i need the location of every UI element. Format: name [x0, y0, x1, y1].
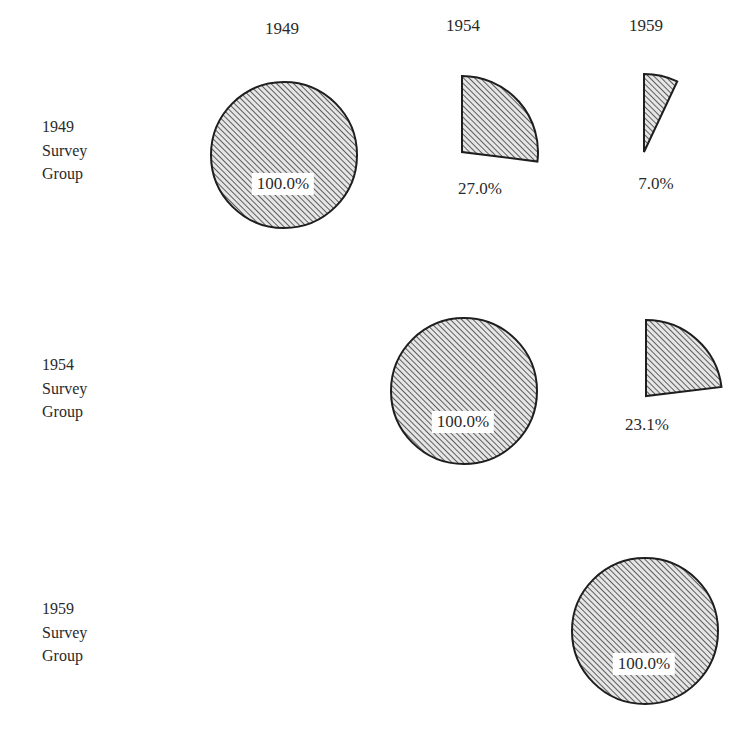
row-label-group: Group	[42, 644, 87, 668]
row-label-survey: Survey	[42, 139, 87, 163]
row-label-year: 1949	[42, 115, 87, 139]
row-label-year: 1954	[42, 353, 87, 377]
pct-label-1954-group-1959: 23.1%	[625, 416, 669, 434]
pie-1949-group-1954	[462, 76, 538, 162]
pie-1959-group-1959	[572, 558, 718, 704]
column-header-1954: 1954	[446, 17, 480, 35]
pie-1954-group-1959	[646, 320, 722, 396]
row-label-year: 1959	[42, 597, 87, 621]
pie-1949-group-1949	[211, 82, 357, 228]
row-label-1949-survey-group: 1949 Survey Group	[42, 115, 87, 186]
chart-canvas	[0, 0, 756, 756]
pct-label-1954-group-1954: 100.0%	[432, 411, 494, 433]
pct-label-1959-group-1959: 100.0%	[613, 653, 675, 675]
column-header-1949: 1949	[265, 20, 299, 38]
row-label-survey: Survey	[42, 621, 87, 645]
row-label-1959-survey-group: 1959 Survey Group	[42, 597, 87, 668]
pct-label-1949-group-1954: 27.0%	[458, 180, 502, 198]
pie-matrix-chart: 1949 1954 1959 1949 Survey Group 1954 Su…	[0, 0, 756, 756]
pie-1954-group-1954	[391, 318, 537, 464]
row-label-group: Group	[42, 162, 87, 186]
row-label-survey: Survey	[42, 377, 87, 401]
column-header-1959: 1959	[629, 17, 663, 35]
row-label-1954-survey-group: 1954 Survey Group	[42, 353, 87, 424]
pie-1949-group-1959	[644, 74, 677, 152]
row-label-group: Group	[42, 400, 87, 424]
pct-label-1949-group-1949: 100.0%	[252, 173, 314, 195]
pct-label-1949-group-1959: 7.0%	[638, 175, 673, 193]
